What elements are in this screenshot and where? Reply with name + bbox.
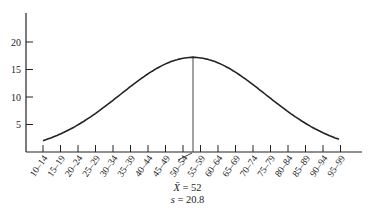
sd-value: = 20.8: [177, 194, 204, 205]
y-tick-label: 10: [11, 92, 21, 103]
mean-symbol: X̄: [173, 182, 179, 193]
y-tick-label: 5: [16, 119, 21, 130]
sd-symbol: s: [171, 194, 175, 205]
x-tick-label: 95–99: [325, 153, 347, 178]
y-axis: 5101520: [11, 13, 33, 152]
bell-curve: [43, 57, 339, 140]
sd-annotation: s = 20.8: [0, 194, 375, 206]
y-tick-label: 15: [11, 64, 21, 75]
x-axis: 10–1415–1920–2425–2930–3435–3940–4445–49…: [26, 145, 362, 179]
mean-annotation: X̄ = 52: [0, 182, 375, 194]
y-tick-label: 20: [11, 37, 21, 48]
mean-value: = 52: [183, 182, 202, 193]
